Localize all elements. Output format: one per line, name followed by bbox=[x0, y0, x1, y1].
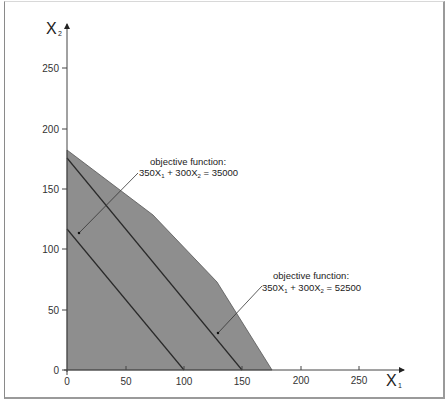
svg-text:100: 100 bbox=[176, 376, 193, 387]
svg-text:350X1 + 300X2 = 52500: 350X1 + 300X2 = 52500 bbox=[262, 282, 361, 294]
svg-text:X: X bbox=[386, 372, 397, 389]
svg-text:50: 50 bbox=[48, 305, 60, 316]
feasible-region bbox=[67, 150, 272, 370]
svg-text:0: 0 bbox=[53, 365, 59, 376]
svg-text:250: 250 bbox=[351, 375, 368, 386]
svg-text:100: 100 bbox=[42, 244, 59, 255]
annotation-2-label: objective function: 350X1 + 300X2 = 5250… bbox=[262, 270, 361, 294]
svg-text:1: 1 bbox=[398, 382, 402, 389]
annotation-1-label: objective function: 350X1 + 300X2 = 3500… bbox=[139, 156, 238, 179]
svg-text:X: X bbox=[46, 20, 57, 37]
svg-text:350X1 + 300X2 = 35000: 350X1 + 300X2 = 35000 bbox=[139, 167, 238, 179]
y-tick-labels: 0 50 100 150 200 250 bbox=[42, 63, 59, 376]
svg-text:0: 0 bbox=[64, 376, 70, 387]
x-tick-labels: 0 50 100 150 200 250 bbox=[64, 375, 368, 387]
svg-text:2: 2 bbox=[58, 30, 62, 37]
y-axis-title: X 2 bbox=[46, 20, 62, 37]
svg-text:objective function:: objective function: bbox=[150, 156, 226, 167]
chart-canvas: 0 50 100 150 200 250 0 50 100 150 200 25… bbox=[0, 0, 448, 403]
svg-text:250: 250 bbox=[42, 63, 59, 74]
svg-text:150: 150 bbox=[234, 376, 251, 387]
svg-text:200: 200 bbox=[293, 375, 310, 386]
svg-text:50: 50 bbox=[120, 376, 132, 387]
svg-text:objective function:: objective function: bbox=[273, 270, 349, 281]
x-axis-title: X 1 bbox=[386, 372, 402, 389]
svg-text:200: 200 bbox=[42, 124, 59, 135]
y-ticks bbox=[62, 68, 67, 370]
svg-text:150: 150 bbox=[42, 184, 59, 195]
